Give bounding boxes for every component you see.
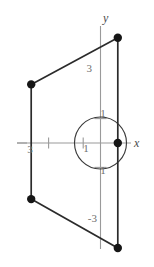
vertex-bottom-left [27,195,35,203]
x-tick-label-neg3: 3 [27,143,33,155]
vertex-top-left [27,80,35,88]
y-tick-label-1: 1 [100,107,106,119]
y-tick-label-neg1: 1 [100,164,106,176]
x-tick-label-neg1: 1 [83,142,89,154]
vertex-top-right [114,34,122,42]
x-axis-label: x [133,136,140,150]
vertex-bottom-right [114,244,122,252]
y-tick-label-neg3: -3 [88,212,98,224]
y-tick-label-3: 3 [87,62,93,74]
y-axis-label: y [102,11,109,25]
coordinate-plane-svg: y x 3 -3 1 1 3 1 [0,0,154,267]
vertex-on-x-axis [114,139,122,147]
math-figure: y x 3 -3 1 1 3 1 [0,0,154,267]
